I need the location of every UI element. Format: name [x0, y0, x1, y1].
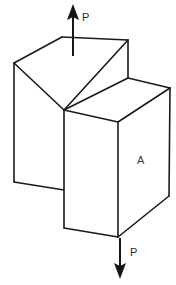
block-diagram-svg: P P A [0, 0, 176, 285]
area-label: A [137, 154, 145, 166]
force-label-top: P [82, 11, 89, 23]
lower-right-block [64, 78, 170, 237]
figure-container: P P A [0, 0, 176, 285]
arrow-down-icon [114, 238, 126, 279]
lower-right-block-front-face [64, 110, 118, 237]
lower-right-block-right-vertical-edge [169, 88, 170, 196]
force-label-bottom: P [130, 246, 137, 258]
